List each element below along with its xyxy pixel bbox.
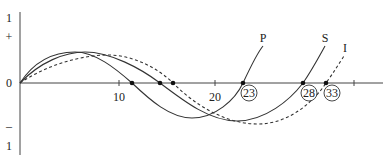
p-half-dot (130, 81, 135, 86)
s-end-dot (301, 81, 306, 86)
legend-i: I (343, 41, 347, 55)
biorhythm-chart: 1 + 0 – 1 10 20 23 28 33 P S I (0, 0, 387, 164)
series-p-curve (20, 46, 263, 118)
y-label-top: 1 (6, 11, 12, 25)
legend-p: P (260, 31, 267, 45)
i-period-label: 33 (326, 86, 338, 100)
y-label-zero: 0 (6, 76, 12, 90)
legend-s: S (322, 31, 329, 45)
series-i-curve (20, 55, 344, 124)
y-label-bottom: 1 (6, 139, 12, 153)
s-half-dot (158, 81, 163, 86)
y-label-plus: + (6, 30, 13, 44)
x-label-20: 20 (209, 90, 221, 104)
x-label-10: 10 (113, 90, 125, 104)
i-end-dot (324, 81, 329, 86)
s-period-label: 28 (303, 86, 315, 100)
i-half-dot (171, 81, 176, 86)
p-period-label: 23 (243, 86, 255, 100)
p-end-dot (241, 81, 246, 86)
y-label-minus: – (5, 119, 13, 133)
